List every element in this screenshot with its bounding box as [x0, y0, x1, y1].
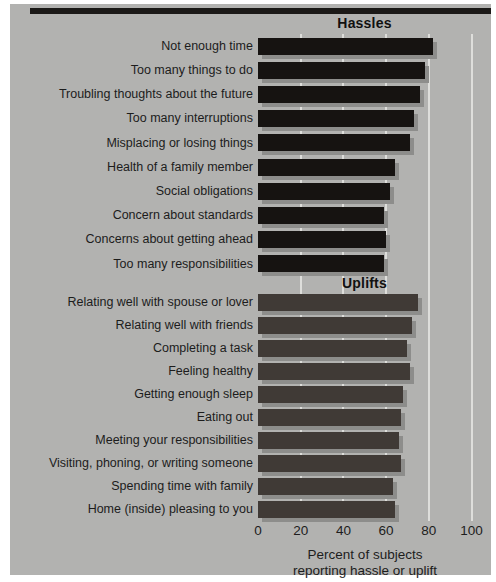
uplift-bar: [258, 455, 401, 472]
uplift-row: Home (inside) pleasing to you: [10, 498, 491, 521]
category-label: Too many responsibilities: [10, 258, 258, 271]
hassle-row: Health of a family member: [10, 155, 491, 179]
uplift-row: Getting enough sleep: [10, 383, 491, 406]
category-label: Spending time with family: [10, 480, 258, 493]
hassle-bar: [258, 255, 384, 272]
hassles-heading: Hassles: [258, 16, 471, 31]
uplift-bar: [258, 386, 403, 403]
plot-area: Not enough time Too many things to do Tr…: [10, 34, 491, 521]
uplift-row: Visiting, phoning, or writing someone: [10, 452, 491, 475]
top-rule: [30, 8, 491, 14]
category-label: Meeting your responsibilities: [10, 434, 258, 447]
uplift-row: Relating well with spouse or lover: [10, 291, 491, 314]
hassle-row: Too many responsibilities: [10, 252, 491, 276]
hassle-row: Too many things to do: [10, 58, 491, 82]
uplift-row: Meeting your responsibilities: [10, 429, 491, 452]
uplift-row: Completing a task: [10, 337, 491, 360]
x-axis: 0 20 40 60 80 100: [10, 523, 491, 539]
uplift-bar: [258, 478, 393, 495]
x-tick-label: 100: [442, 523, 496, 538]
category-label: Visiting, phoning, or writing someone: [10, 457, 258, 470]
uplifts-heading: Uplifts: [258, 276, 471, 291]
hassle-bar: [258, 86, 420, 103]
category-label: Concerns about getting ahead: [10, 233, 258, 246]
uplift-bar: [258, 340, 407, 357]
category-label: Completing a task: [10, 342, 258, 355]
uplift-bar: [258, 432, 399, 449]
x-axis-title-line2: reporting hassle or uplift: [250, 563, 480, 579]
category-label: Too many interruptions: [10, 112, 258, 125]
hassle-row: Social obligations: [10, 179, 491, 203]
hassle-bar: [258, 231, 386, 248]
uplift-row: Spending time with family: [10, 475, 491, 498]
category-label: Not enough time: [10, 40, 258, 53]
x-axis-title-line1: Percent of subjects: [250, 547, 480, 563]
category-label: Troubling thoughts about the future: [10, 88, 258, 101]
uplift-row: Relating well with friends: [10, 314, 491, 337]
category-label: Too many things to do: [10, 64, 258, 77]
hassle-bar: [258, 159, 395, 176]
uplift-bar: [258, 409, 401, 426]
category-label: Health of a family member: [10, 161, 258, 174]
hassle-bar: [258, 110, 414, 127]
uplift-bar: [258, 501, 395, 518]
hassle-row: Too many interruptions: [10, 107, 491, 131]
category-label: Concern about standards: [10, 209, 258, 222]
uplift-row: Feeling healthy: [10, 360, 491, 383]
hassle-row: Concern about standards: [10, 203, 491, 227]
uplift-bar: [258, 294, 418, 311]
hassle-row: Not enough time: [10, 34, 491, 58]
category-label: Getting enough sleep: [10, 388, 258, 401]
uplift-row: Eating out: [10, 406, 491, 429]
hassle-bar: [258, 183, 390, 200]
hassle-row: Concerns about getting ahead: [10, 228, 491, 252]
hassle-row: Misplacing or losing things: [10, 131, 491, 155]
uplift-bar: [258, 317, 412, 334]
hassle-bar: [258, 38, 433, 55]
category-label: Misplacing or losing things: [10, 137, 258, 150]
category-label: Feeling healthy: [10, 365, 258, 378]
category-label: Eating out: [10, 411, 258, 424]
hassle-bar: [258, 207, 384, 224]
hassle-bar: [258, 62, 425, 79]
category-label: Relating well with spouse or lover: [10, 296, 258, 309]
category-label: Home (inside) pleasing to you: [10, 503, 258, 516]
category-label: Relating well with friends: [10, 319, 258, 332]
hassle-bar: [258, 134, 410, 151]
category-label: Social obligations: [10, 185, 258, 198]
hassle-row: Troubling thoughts about the future: [10, 82, 491, 106]
figure-panel: Hassles Not enough time Too many things …: [10, 4, 491, 575]
x-axis-title: Percent of subjects reporting hassle or …: [250, 547, 480, 579]
uplift-bar: [258, 363, 410, 380]
